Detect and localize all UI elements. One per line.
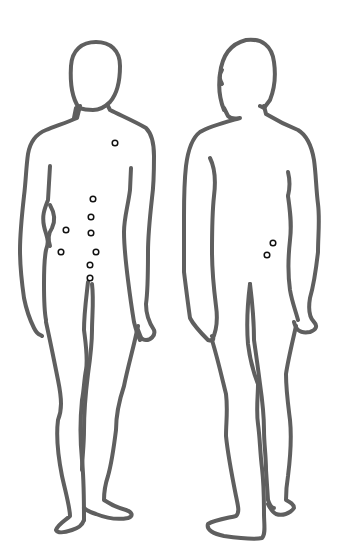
front-marker-circle-icon xyxy=(93,249,99,255)
front-marker-circle-icon xyxy=(88,214,94,220)
front-marker-circle-icon xyxy=(63,227,69,233)
front-marker-circle-icon xyxy=(58,249,64,255)
front-marker-circle-icon xyxy=(88,230,94,236)
front-marker-circle-icon xyxy=(112,140,118,146)
back-marker-circle-icon xyxy=(264,252,270,258)
back-marker-circle-icon xyxy=(270,240,276,246)
front-marker-circle-icon xyxy=(90,196,96,202)
body-map-diagram xyxy=(0,0,338,555)
front-marker-circle-icon xyxy=(87,262,93,268)
front-marker-circle-icon xyxy=(87,275,93,281)
marker-layer xyxy=(0,0,338,555)
